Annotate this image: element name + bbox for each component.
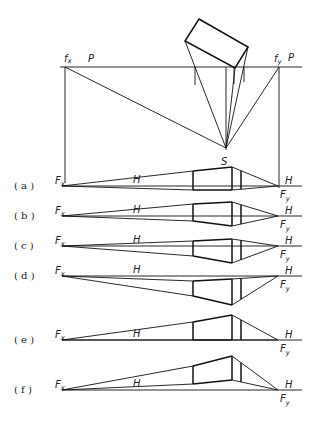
fy-label: Fy [280, 189, 291, 203]
vanishing-line-fy-top [232, 202, 278, 216]
vanishing-line-fy-bottom [232, 186, 278, 190]
vanishing-line-fy-top [232, 239, 278, 246]
horizon-label-mid: H [133, 234, 141, 245]
perspective-diagram: fx P fy P S ( a )FxHHFy( b )FxHHFy( c )F… [0, 0, 316, 421]
vanishing-line-fx-bottom [62, 216, 193, 221]
row-label: ( d ) [14, 270, 35, 281]
fy-label: Fy [280, 249, 291, 263]
box-bottom-left [193, 256, 232, 263]
fy-label: Fy [280, 279, 291, 293]
fx-label: Fx [55, 175, 66, 188]
vanishing-line-fy-top [232, 276, 278, 279]
perspective-rows: ( a )FxHHFy( b )FxHHFy( c )FxHHFy( d )Fx… [14, 167, 302, 407]
vanishing-line-fx-bottom [62, 384, 193, 390]
vanishing-line-fx-top [62, 241, 193, 246]
horizon-label-mid: H [133, 174, 141, 185]
box-top-left [193, 167, 232, 171]
plan-box [185, 19, 248, 68]
horizon-label-right: H [285, 329, 293, 340]
box-top-left [193, 356, 232, 366]
fx-plan-label: fx [64, 53, 73, 65]
row-label: ( c ) [14, 240, 34, 251]
fy-label: Fy [280, 393, 291, 407]
vanishing-line-fx-bottom [62, 246, 193, 256]
fy-label: Fy [280, 343, 291, 357]
box-bottom-left [193, 221, 232, 226]
horizon-label-right: H [285, 205, 293, 216]
p-right-label: P [288, 52, 295, 63]
fx-label: Fx [55, 265, 66, 278]
fx-label: Fx [55, 235, 66, 248]
fy-plan-label: fy [274, 53, 283, 66]
vanishing-line-fy-top [232, 167, 278, 186]
vanishing-line-fx-top [62, 322, 193, 340]
fy-label: Fy [280, 219, 291, 233]
fx-label: Fx [55, 379, 66, 392]
horizon-label-right: H [285, 235, 293, 246]
p-left-label: P [88, 53, 95, 64]
box-top-left [193, 279, 232, 281]
horizon-label-mid: H [133, 204, 141, 215]
vanishing-line-fy-bottom [232, 246, 278, 263]
projector-3 [226, 47, 248, 148]
projector-1 [185, 41, 226, 148]
vanishing-line-fx-bottom [62, 276, 193, 296]
horizon-label-mid: H [133, 378, 141, 389]
vanishing-line-fx-top [62, 171, 193, 186]
vanishing-line-fy-bottom [232, 216, 278, 226]
fx-label: Fx [55, 329, 66, 342]
horizon-label-right: H [285, 265, 293, 276]
ray-fx [65, 67, 226, 148]
station-point-label: S [221, 156, 228, 167]
vanishing-line-fy-bottom [232, 276, 278, 305]
horizon-label-right: H [285, 379, 293, 390]
horizon-label-mid: H [133, 264, 141, 275]
vanishing-line-fx-top [62, 276, 193, 281]
row-label: ( f ) [14, 384, 32, 395]
vanishing-line-fy-top [232, 315, 278, 340]
vanishing-line-fx-top [62, 204, 193, 216]
plan-view: fx P fy P S [60, 19, 302, 188]
box-top-left [193, 239, 232, 241]
vanishing-line-fx-top [62, 366, 193, 390]
box-bottom-left [193, 296, 232, 305]
row-label: ( a ) [14, 180, 34, 191]
horizon-label-mid: H [133, 328, 141, 339]
horizon-label-right: H [285, 175, 293, 186]
fx-label: Fx [55, 205, 66, 218]
row-label: ( b ) [14, 210, 35, 221]
box-bottom-left [193, 380, 232, 384]
vanishing-line-fx-bottom [62, 186, 193, 190]
box-top-left [193, 315, 232, 322]
box-top-left [193, 202, 232, 204]
row-label: ( e ) [14, 334, 34, 345]
